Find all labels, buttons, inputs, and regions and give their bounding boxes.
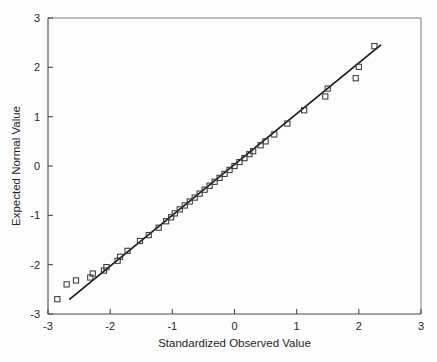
qq-plot-figure: -3-2-10123-3-2-10123Standardized Observe… <box>0 0 437 362</box>
y-tick-label: -1 <box>30 209 40 221</box>
y-tick-label: 2 <box>34 61 40 73</box>
data-point-marker <box>323 94 328 99</box>
y-tick-label: -2 <box>30 259 40 271</box>
data-point-marker <box>73 278 78 283</box>
x-tick-label: -1 <box>167 320 177 332</box>
x-tick-label: 1 <box>294 320 300 332</box>
reference-line-group <box>70 45 381 299</box>
data-point-marker <box>64 282 69 287</box>
qq-plot-canvas: -3-2-10123-3-2-10123Standardized Observe… <box>0 0 437 362</box>
x-tick-label: -2 <box>105 320 115 332</box>
y-axis-title: Expected Normal Value <box>10 106 22 226</box>
x-tick-label: -3 <box>43 320 53 332</box>
x-axis-title: Standardized Observed Value <box>158 337 311 349</box>
x-tick-label: 3 <box>418 320 424 332</box>
y-tick-label: 1 <box>34 111 40 123</box>
y-tick-label: -3 <box>30 308 40 320</box>
y-tick-label: 0 <box>34 160 40 172</box>
reference-line <box>70 45 381 299</box>
y-tick-label: 3 <box>34 12 40 24</box>
x-tick-label: 2 <box>356 320 362 332</box>
data-points-group <box>55 44 377 302</box>
data-point-marker <box>353 76 358 81</box>
x-tick-label: 0 <box>231 320 237 332</box>
data-point-marker <box>55 297 60 302</box>
